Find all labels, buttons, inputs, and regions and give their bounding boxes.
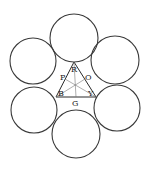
circle-bottom [52,110,100,158]
label-o: O [85,73,92,82]
circle-top [50,14,98,62]
circles-group [10,14,140,158]
circle-upper-left [10,38,56,84]
label-g: G [72,99,78,108]
label-p: P [60,73,66,82]
label-b: B [58,89,64,98]
labels-group: R P O B Y G [58,65,94,108]
label-y: Y [87,89,94,98]
label-r: R [71,65,78,74]
circle-lower-right [94,85,140,131]
circle-upper-right [91,36,139,84]
circle-lower-left [11,87,57,133]
color-circle-diagram: R P O B Y G [0,0,151,173]
